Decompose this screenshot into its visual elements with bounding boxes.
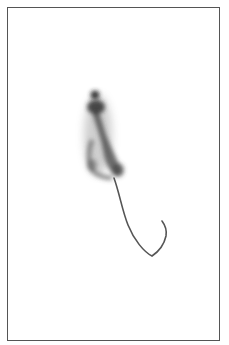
mouse-figure bbox=[0, 0, 229, 345]
mouse-tail bbox=[114, 178, 166, 256]
mouse-head bbox=[91, 91, 100, 100]
